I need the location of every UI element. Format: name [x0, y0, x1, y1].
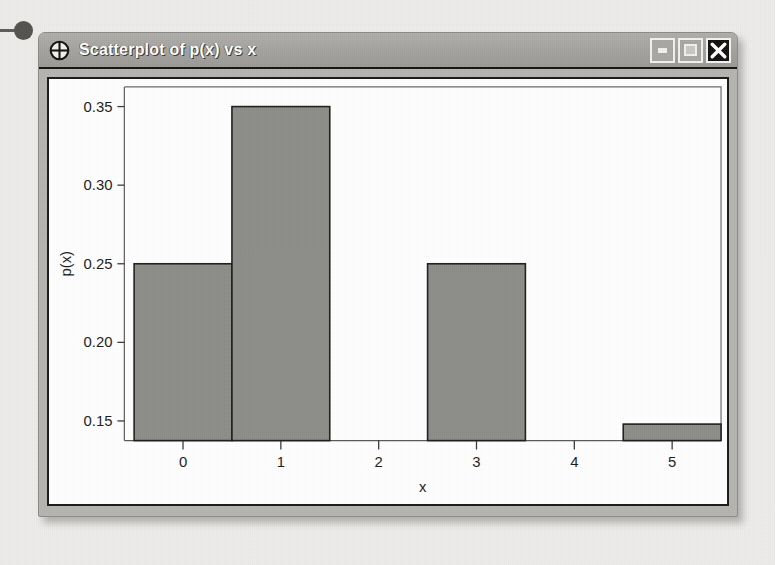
window-titlebar[interactable]: Scatterplot of p(x) vs x: [39, 33, 737, 69]
x-tick-label: 4: [570, 454, 578, 470]
plot-window: Scatterplot of p(x) vs x 0.150.200.: [38, 32, 738, 517]
bar-1: [232, 107, 330, 441]
y-tick-label: 0.15: [84, 413, 113, 429]
y-axis-title: p(x): [58, 251, 74, 277]
x-tick-label: 1: [277, 454, 285, 470]
crosshair-target-icon: [49, 40, 70, 61]
y-tick-label: 0.25: [84, 256, 113, 272]
bar-5: [623, 424, 721, 441]
plot-area: 0.150.200.250.300.35012345xp(x): [47, 77, 729, 506]
x-axis-title: x: [419, 479, 427, 495]
bar-0: [134, 264, 232, 441]
x-tick-label: 0: [179, 454, 187, 470]
y-tick-label: 0.35: [84, 99, 113, 115]
y-tick-label: 0.30: [84, 177, 113, 193]
maximize-button[interactable]: [678, 38, 703, 63]
x-tick-label: 2: [375, 454, 383, 470]
close-button[interactable]: [706, 38, 731, 63]
x-tick-label: 3: [472, 454, 480, 470]
y-tick-label: 0.20: [84, 334, 113, 350]
minimize-icon: [658, 48, 667, 53]
page-canvas: Scatterplot of p(x) vs x 0.150.200.: [0, 0, 775, 565]
bullet-dot-marker: [14, 21, 33, 40]
bar-chart: 0.150.200.250.300.35012345xp(x): [49, 79, 727, 504]
bar-3: [428, 264, 526, 441]
x-tick-label: 5: [668, 454, 676, 470]
close-icon: [709, 41, 728, 60]
minimize-button[interactable]: [650, 38, 675, 63]
window-controls: [650, 38, 731, 63]
maximize-icon: [684, 44, 697, 56]
window-title: Scatterplot of p(x) vs x: [79, 41, 650, 59]
